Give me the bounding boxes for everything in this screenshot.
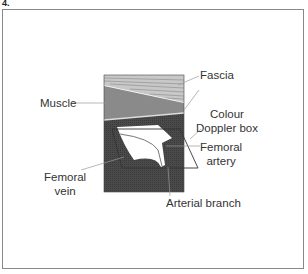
label-doppler-box: Doppler box [196, 121, 258, 135]
label-colour-doppler-box: Colour Doppler box [196, 107, 258, 135]
label-femoral: Femoral [44, 170, 86, 184]
label-artery: artery [200, 154, 242, 168]
label-colour: Colour [196, 107, 258, 121]
label-fascia: Fascia [200, 68, 234, 82]
label-vein: vein [44, 184, 86, 198]
label-muscle: Muscle [40, 96, 76, 110]
label-femoral: Femoral [200, 140, 242, 154]
label-femoral-vein: Femoral vein [44, 170, 86, 198]
label-arterial-branch: Arterial branch [166, 196, 241, 210]
ultrasound-diagram [0, 0, 308, 274]
label-femoral-artery: Femoral artery [200, 140, 242, 168]
